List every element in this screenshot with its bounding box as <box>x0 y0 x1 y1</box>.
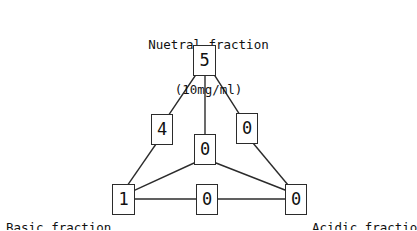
edge-rightmid-bottomright <box>253 143 288 185</box>
corner-label-acidic-name: Acidic fraction <box>312 220 416 231</box>
node-center[interactable]: 0 <box>194 134 216 165</box>
edge-center-bottomleft <box>135 163 194 190</box>
node-right-mid[interactable]: 0 <box>236 113 258 144</box>
edge-center-bottomright <box>216 163 285 190</box>
node-bottom-right[interactable]: 0 <box>285 184 307 215</box>
node-left-mid[interactable]: 4 <box>151 114 173 145</box>
corner-label-neutral-conc: (10mg/ml) <box>0 82 417 97</box>
node-bottom-center[interactable]: 0 <box>196 184 218 215</box>
corner-label-basic-name: Basic fraction <box>6 220 110 231</box>
node-apex[interactable]: 5 <box>193 45 216 76</box>
edge-leftmid-bottomleft <box>127 144 156 186</box>
corner-label-basic: Basic fraction (3 mg/ml) <box>6 189 110 230</box>
corner-label-acidic: Acidic fraction (8 mg/ml) <box>312 189 416 230</box>
node-bottom-left[interactable]: 1 <box>112 184 135 215</box>
diagram-canvas: 5 4 0 0 1 0 0 Nuetral fraction (10mg/ml)… <box>0 0 417 230</box>
